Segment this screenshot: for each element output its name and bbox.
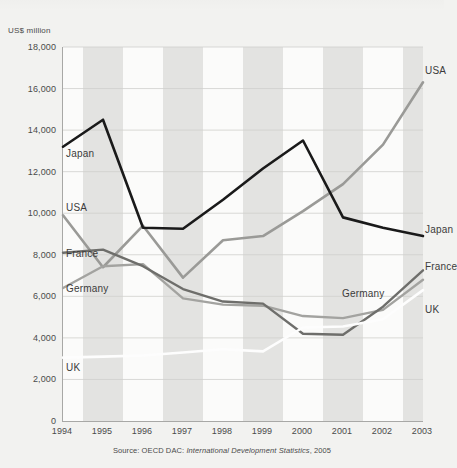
band <box>323 47 363 421</box>
series-label-right-uk: UK <box>425 303 439 314</box>
series-label-right-germany: Germany <box>342 288 385 299</box>
series-label-right-japan: Japan <box>425 223 453 234</box>
x-tick-label: 1994 <box>52 426 72 436</box>
source-prefix: Source: OECD DAC: <box>113 446 187 455</box>
x-tick-label: 1997 <box>172 426 192 436</box>
series-label-left-japan: Japan <box>66 147 94 158</box>
x-tick-label: 2003 <box>412 426 432 436</box>
x-tick-label: 2002 <box>372 426 392 436</box>
series-label-right-usa: USA <box>425 64 446 75</box>
x-tick-label: 1998 <box>212 426 232 436</box>
y-axis-ticks: 18,00016,00014,00012,00010,0008,0006,000… <box>0 0 56 468</box>
x-tick-label: 2000 <box>292 426 312 436</box>
source-note: Source: OECD DAC: International Developm… <box>0 446 444 455</box>
series-label-left-usa: USA <box>66 201 87 212</box>
band <box>243 47 283 421</box>
y-tick-label: 2,000 <box>4 374 56 384</box>
y-tick-label: 14,000 <box>4 125 56 135</box>
x-tick-label: 1999 <box>252 426 272 436</box>
y-tick-label: 10,000 <box>4 208 56 218</box>
x-tick-label: 2001 <box>332 426 352 436</box>
plot-area <box>62 47 423 422</box>
y-tick-label: 18,000 <box>4 42 56 52</box>
source-title: International Development Statistics <box>186 446 309 455</box>
y-tick-label: 12,000 <box>4 167 56 177</box>
band <box>163 47 203 421</box>
y-tick-label: 8,000 <box>4 250 56 260</box>
x-tick-label: 1996 <box>132 426 152 436</box>
source-suffix: , 2005 <box>310 446 331 455</box>
band <box>83 47 123 421</box>
series-label-left-uk: UK <box>66 361 80 372</box>
chart-svg <box>63 47 423 421</box>
x-tick-label: 1995 <box>92 426 112 436</box>
series-label-right-france: France <box>425 261 457 272</box>
series-label-left-france: France <box>66 247 98 258</box>
top-edge-fade <box>0 0 444 10</box>
series-label-left-germany: Germany <box>66 283 109 294</box>
y-tick-label: 4,000 <box>4 333 56 343</box>
y-tick-label: 0 <box>4 416 56 426</box>
y-tick-label: 16,000 <box>4 84 56 94</box>
y-tick-label: 6,000 <box>4 291 56 301</box>
